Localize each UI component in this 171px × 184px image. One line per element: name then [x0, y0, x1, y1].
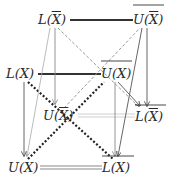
label-var: X	[59, 108, 68, 123]
edge-n1-n7	[27, 28, 50, 156]
node-n6-label: L(X)	[135, 110, 163, 123]
label-suffix: )	[29, 66, 34, 81]
label-prefix: L(	[135, 109, 149, 124]
label-prefix: U(	[8, 160, 24, 175]
node-n7-label: U(X)	[8, 161, 38, 174]
label-var: X	[52, 12, 61, 27]
node-n3-label: L(X)	[6, 67, 34, 80]
label-var: X	[149, 12, 158, 27]
label-var: X	[117, 66, 126, 81]
label-prefix: U(	[43, 108, 59, 123]
edge-n4-n6	[118, 82, 140, 106]
node-n1-label: L(X)	[38, 13, 66, 26]
label-var: X	[116, 160, 125, 175]
label-prefix: L(	[6, 66, 20, 81]
label-suffix: )	[33, 160, 38, 175]
approximation-cube-diagram	[0, 0, 171, 184]
label-prefix: L(	[38, 12, 52, 27]
label-prefix: U(	[133, 12, 149, 27]
label-suffix: )	[68, 108, 73, 123]
label-suffix: )	[125, 160, 130, 175]
node-n4-label: U(X)	[101, 67, 131, 80]
label-suffix: )	[126, 66, 131, 81]
label-prefix: L(	[102, 160, 116, 175]
label-suffix: )	[158, 12, 163, 27]
label-var: X	[149, 109, 158, 124]
label-suffix: )	[158, 109, 163, 124]
label-var: X	[24, 160, 33, 175]
node-n2-label: U(X)	[133, 13, 163, 26]
node-n5-label: U(X)	[43, 109, 73, 122]
edge-n2-n8	[118, 28, 142, 156]
node-n8-label: L(X)	[102, 161, 130, 174]
label-prefix: U(	[101, 66, 117, 81]
label-suffix: )	[61, 12, 66, 27]
label-var: X	[20, 66, 29, 81]
